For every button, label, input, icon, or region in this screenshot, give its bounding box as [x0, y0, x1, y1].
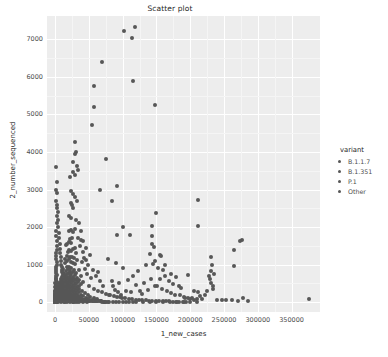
gridline-horizontal-minor	[47, 208, 320, 209]
data-point	[73, 173, 77, 177]
x-tick-label: 0	[53, 316, 57, 324]
data-point	[81, 250, 85, 254]
data-point	[67, 229, 71, 233]
gridline-vertical	[190, 16, 191, 312]
data-point	[85, 272, 89, 276]
data-point	[232, 264, 236, 268]
data-point	[188, 300, 192, 304]
data-point	[210, 263, 214, 267]
data-point	[153, 284, 157, 288]
y-tick-label: 7000	[3, 35, 43, 43]
data-point	[134, 283, 138, 287]
x-tick-label: 150000	[144, 316, 169, 324]
data-point	[169, 272, 173, 276]
data-point	[98, 279, 102, 283]
x-tick-label: 100000	[110, 316, 135, 324]
data-point	[76, 168, 80, 172]
data-point	[73, 152, 77, 156]
gridline-vertical-minor	[207, 16, 208, 312]
data-point	[75, 199, 79, 203]
legend-marker-circle-icon	[334, 177, 345, 186]
legend-item[interactable]: B.1.1.7	[334, 157, 388, 166]
data-point	[91, 268, 95, 272]
gridline-vertical	[292, 16, 293, 312]
legend-item[interactable]: Other	[334, 187, 388, 196]
data-point	[212, 272, 216, 276]
data-point	[83, 267, 87, 271]
x-tick-label: 350000	[279, 316, 304, 324]
data-point	[84, 258, 88, 262]
data-point	[144, 263, 148, 267]
y-axis-label: 2_number_sequenced	[9, 85, 17, 235]
data-point	[77, 221, 81, 225]
data-point	[215, 298, 219, 302]
y-tick-label: 1000	[3, 261, 43, 269]
data-point	[133, 25, 137, 29]
data-point	[140, 292, 144, 296]
data-point	[186, 273, 190, 277]
data-point	[122, 29, 126, 33]
gridline-vertical-minor	[241, 16, 242, 312]
data-point	[124, 289, 128, 293]
data-point	[54, 229, 58, 233]
data-point	[160, 287, 164, 291]
gridline-vertical-minor	[140, 16, 141, 312]
data-point	[196, 198, 200, 202]
data-point	[209, 255, 213, 259]
data-point	[168, 300, 172, 304]
data-point	[84, 246, 88, 250]
data-point	[106, 257, 110, 261]
data-point	[171, 282, 175, 286]
x-tick-label: 300000	[245, 316, 270, 324]
legend-items: B.1.1.7B.1.351P.1Other	[334, 157, 388, 196]
data-point	[130, 36, 134, 40]
data-point	[156, 266, 160, 270]
data-point	[131, 79, 135, 83]
gridline-horizontal-minor	[47, 171, 320, 172]
data-point	[110, 199, 114, 203]
x-tick-label: 200000	[178, 316, 203, 324]
data-point	[104, 157, 108, 161]
data-point	[121, 225, 125, 229]
legend-item[interactable]: B.1.351	[334, 167, 388, 176]
legend-item-label: P.1	[348, 178, 357, 185]
legend-item-label: B.1.1.7	[348, 158, 370, 165]
y-tick-label: 6000	[3, 73, 43, 81]
data-point	[211, 287, 215, 291]
data-point	[101, 284, 105, 288]
data-point	[161, 268, 165, 272]
data-point	[54, 165, 58, 169]
data-point	[131, 274, 135, 278]
data-point	[78, 244, 82, 248]
legend-title: variant	[340, 146, 388, 154]
data-point	[79, 229, 83, 233]
data-point	[146, 288, 150, 292]
data-point	[232, 248, 236, 252]
data-point	[154, 300, 158, 304]
data-point	[54, 300, 58, 304]
data-point	[63, 282, 67, 286]
data-point	[98, 188, 102, 192]
legend-item[interactable]: P.1	[334, 177, 388, 186]
data-point	[205, 289, 209, 293]
data-point	[165, 289, 169, 293]
legend-marker-circle-icon	[334, 167, 345, 176]
data-point	[87, 284, 91, 288]
data-point	[159, 254, 163, 258]
y-axis-tick-labels: 01000200030004000500060007000	[0, 16, 43, 312]
data-point	[71, 230, 75, 234]
x-tick-label: 50000	[79, 316, 100, 324]
gridline-vertical	[89, 16, 90, 312]
plot-panel	[47, 16, 320, 312]
data-point	[69, 241, 73, 245]
data-point	[64, 243, 68, 247]
data-point	[81, 239, 85, 243]
legend: variant B.1.1.7B.1.351P.1Other	[334, 146, 388, 197]
data-point	[55, 180, 59, 184]
data-point	[115, 184, 119, 188]
data-point	[71, 206, 75, 210]
data-point	[153, 103, 157, 107]
data-point	[90, 123, 94, 127]
data-point	[126, 278, 130, 282]
data-point	[73, 140, 77, 144]
